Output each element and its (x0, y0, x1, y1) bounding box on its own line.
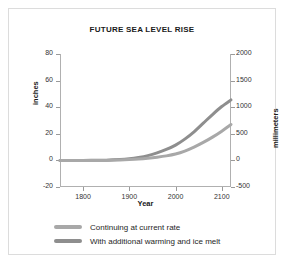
y-tick-right (231, 54, 235, 55)
y-tick-label-right: 500 (236, 129, 264, 136)
legend-item[interactable]: Continuing at current rate (54, 220, 254, 234)
chart-card: FUTURE SEA LEVEL RISE inches millimeters… (8, 8, 276, 255)
x-tick-label: 1800 (68, 193, 98, 200)
data-curves (60, 54, 231, 187)
y-tick-right (231, 81, 235, 82)
legend-swatch-icon (54, 225, 82, 229)
y-tick-label-right: 0 (236, 155, 264, 162)
y-axis-label-right: millimeters (271, 108, 280, 148)
x-tick (129, 187, 130, 191)
y-tick-right (231, 187, 235, 188)
plot-area: 806040200-20 2000150010005000-500 180019… (60, 54, 231, 187)
y-tick-label-left: -20 (29, 182, 53, 189)
x-tick-label: 2000 (161, 193, 191, 200)
y-tick-left (56, 187, 60, 188)
legend-item-label: Continuing at current rate (90, 223, 180, 232)
y-tick-label-left: 60 (29, 76, 53, 83)
y-tick-label-right: 1500 (236, 76, 264, 83)
y-tick-label-left: 0 (29, 155, 53, 162)
legend-item-label: With additional warming and ice melt (90, 237, 220, 246)
y-tick-right (231, 134, 235, 135)
y-tick-label-right: -500 (236, 182, 264, 189)
y-tick-label-left: 20 (29, 129, 53, 136)
x-tick-label: 1900 (114, 193, 144, 200)
chart-legend: Continuing at current rateWith additiona… (54, 220, 254, 248)
x-tick (83, 187, 84, 191)
y-tick-label-right: 1000 (236, 102, 264, 109)
y-tick-label-left: 80 (29, 49, 53, 56)
y-tick-right (231, 107, 235, 108)
x-tick (176, 187, 177, 191)
x-tick-label: 2100 (207, 193, 237, 200)
y-tick-right (231, 160, 235, 161)
y-tick-label-left: 40 (29, 102, 53, 109)
x-axis-label: Year (60, 199, 231, 208)
legend-item[interactable]: With additional warming and ice melt (54, 234, 254, 248)
y-tick-label-right: 2000 (236, 49, 264, 56)
x-tick (222, 187, 223, 191)
chart-screenshot: FUTURE SEA LEVEL RISE inches millimeters… (0, 0, 286, 265)
legend-swatch-icon (54, 239, 82, 243)
chart-title: FUTURE SEA LEVEL RISE (9, 25, 275, 34)
series-line (60, 100, 231, 161)
